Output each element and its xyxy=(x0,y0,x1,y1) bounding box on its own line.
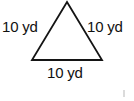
triangle-figure: 10 yd 10 yd 10 yd xyxy=(0,0,134,101)
scan-artifact-speck xyxy=(123,90,125,97)
bottom-side-label: 10 yd xyxy=(47,65,83,80)
right-side-label: 10 yd xyxy=(87,19,123,34)
left-side-label: 10 yd xyxy=(2,19,38,34)
triangle-shape xyxy=(0,0,134,101)
